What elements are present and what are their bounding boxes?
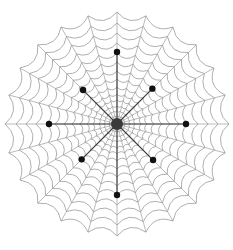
node-southwest (78, 156, 84, 162)
web-spoke (88, 16, 117, 124)
web-spoke (9, 95, 117, 124)
web-spoke (117, 124, 225, 153)
web-spoke (117, 124, 214, 180)
node-southeast (150, 157, 156, 163)
node-north (114, 49, 120, 55)
web-spoke (117, 124, 173, 221)
web-spoke (61, 124, 117, 221)
web-spoke (20, 68, 117, 124)
web-spoke (9, 124, 117, 153)
web-spoke (88, 124, 117, 232)
web-spoke (20, 124, 117, 180)
node-east (183, 121, 189, 127)
web-spoke (117, 27, 173, 124)
node-northeast (149, 85, 155, 91)
node-northwest (80, 87, 86, 93)
web-spoke (117, 16, 146, 124)
node-south (114, 192, 120, 198)
web-spoke (117, 124, 146, 232)
web-spoke (61, 27, 117, 124)
node-west (46, 121, 52, 127)
web-spoke (117, 68, 214, 124)
web-spoke (117, 95, 225, 124)
spider-web-diagram (0, 0, 233, 250)
center-hub (111, 118, 123, 130)
